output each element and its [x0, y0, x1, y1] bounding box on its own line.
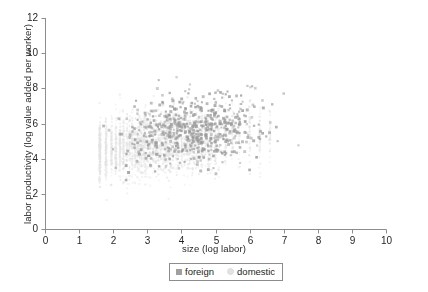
- scatter-plot-figure: labor productivity (log value added per …: [0, 0, 428, 292]
- legend-swatch-domestic-icon: [227, 268, 234, 275]
- x-axis-title: size (log labor): [0, 243, 428, 254]
- legend-entry-foreign: foreign: [176, 266, 214, 277]
- legend-label-domestic: domestic: [237, 266, 275, 277]
- legend-label-foreign: foreign: [185, 266, 214, 277]
- chart-legend: foreign domestic: [169, 263, 283, 281]
- legend-swatch-foreign-icon: [176, 269, 182, 275]
- legend-entry-domestic: domestic: [227, 266, 275, 277]
- y-axis-title: labor productivity (log value added per …: [22, 4, 33, 244]
- y-axis-title-container: labor productivity (log value added per …: [22, 4, 38, 244]
